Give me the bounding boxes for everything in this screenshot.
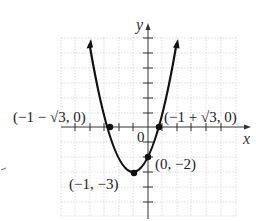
curve-right-arrow-icon — [173, 39, 180, 49]
y-axis-arrow-icon — [146, 23, 151, 30]
x-axis-label: x — [242, 130, 250, 147]
y-axis-label: y — [134, 16, 144, 34]
y-intercept-label: (0, −2) — [155, 156, 196, 173]
right-root-point — [156, 124, 162, 130]
chart-canvas: y x 0 (−1 − √3, 0) (−1 + √3, 0) (0, −2) … — [0, 0, 256, 221]
vertex-label: (−1, −3) — [69, 176, 118, 193]
y-axis — [143, 23, 153, 219]
x-axis-arrow-icon — [244, 125, 251, 130]
y-intercept-point — [145, 154, 151, 160]
vertex-point — [131, 170, 137, 176]
origin-label: 0 — [137, 129, 145, 145]
left-root-label: (−1 − √3, 0) — [13, 109, 86, 126]
parabola-curve — [90, 44, 177, 172]
stray-mark — [1, 168, 6, 170]
right-root-label: (−1 + √3, 0) — [164, 109, 237, 126]
left-root-point — [107, 124, 113, 130]
